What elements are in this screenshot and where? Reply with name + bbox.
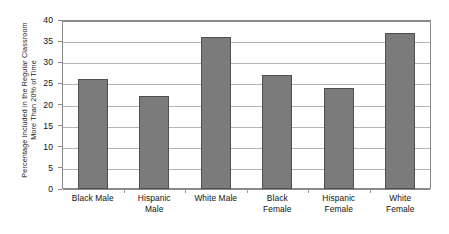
x-axis-category-line: Male	[124, 204, 186, 215]
x-axis-category-line: Female	[370, 204, 432, 215]
y-tick-20: 20	[43, 100, 62, 110]
x-axis-category-label: White Male	[185, 193, 247, 204]
x-axis-category-label: HispanicFemale	[308, 193, 370, 215]
y-tick-30: 30	[43, 57, 62, 67]
y-tick-label: 35	[43, 36, 58, 46]
y-tick-label: 15	[43, 121, 58, 131]
x-axis-category-line: Black Male	[62, 193, 124, 204]
x-axis-category-line: Hispanic	[308, 193, 370, 204]
x-axis-category-line: Hispanic	[124, 193, 186, 204]
bar	[324, 88, 354, 189]
bar	[139, 96, 169, 189]
bar	[262, 75, 292, 189]
x-axis-category-label: WhiteFemale	[370, 193, 432, 215]
bar-chart: Percentage Included in the Regular Class…	[0, 0, 449, 234]
y-tick-label: 40	[43, 15, 58, 25]
x-axis-category-line: White Male	[185, 193, 247, 204]
x-axis-category-line: Female	[308, 204, 370, 215]
y-tick-15: 15	[43, 121, 62, 131]
y-tick-label: 10	[43, 142, 58, 152]
x-axis-category-label: BlackFemale	[247, 193, 309, 215]
bar	[385, 33, 415, 189]
y-tick-10: 10	[43, 142, 62, 152]
y-tick-label: 25	[43, 78, 58, 88]
bar	[201, 37, 231, 189]
y-tick-label: 30	[43, 57, 58, 67]
x-axis-category-line: Female	[247, 204, 309, 215]
x-axis-labels: Black MaleHispanicMaleWhite MaleBlackFem…	[62, 193, 431, 231]
bar	[78, 79, 108, 189]
y-tick-5: 5	[48, 163, 62, 173]
y-tick-25: 25	[43, 78, 62, 88]
y-tick-40: 40	[43, 15, 62, 25]
y-tick-label: 20	[43, 100, 58, 110]
x-axis-category-line: White	[370, 193, 432, 204]
x-axis-category-label: HispanicMale	[124, 193, 186, 215]
y-tick-label: 5	[48, 163, 58, 173]
bars-layer	[62, 20, 431, 189]
y-tick-label: 0	[48, 184, 58, 194]
y-tick-35: 35	[43, 36, 62, 46]
y-tick-0: 0	[48, 184, 62, 194]
x-axis-category-line: Black	[247, 193, 309, 204]
y-axis-ticks: 0510152025303540	[0, 20, 62, 189]
x-axis-category-label: Black Male	[62, 193, 124, 204]
